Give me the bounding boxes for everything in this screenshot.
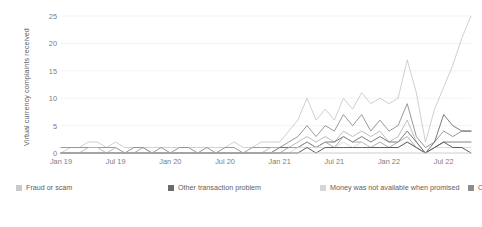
- line-chart-figure: Virtual currency complaints received 051…: [0, 0, 482, 227]
- legend-item-label: Fraud or scam: [26, 184, 72, 191]
- legend-item-label: Money was not available when promised: [330, 184, 459, 191]
- y-tick-label: 25: [49, 12, 57, 21]
- x-tick-label: Jan 20: [159, 157, 181, 166]
- legend-swatch-icon: [16, 185, 22, 191]
- legend-swatch-icon: [468, 185, 474, 191]
- x-tick-label: Jul 22: [434, 157, 454, 166]
- legend-swatch-icon: [168, 185, 174, 191]
- series-line: [61, 120, 471, 153]
- x-tick-label: Jan 22: [378, 157, 400, 166]
- y-tick-label: 10: [49, 94, 57, 103]
- series-line: [61, 16, 471, 153]
- x-tick-label: Jan 21: [269, 157, 291, 166]
- x-tick-label: Jul 21: [324, 157, 344, 166]
- y-tick-label: 20: [49, 39, 57, 48]
- chart-legend: Fraud or scamOther transaction problemMo…: [16, 181, 468, 194]
- x-tick-label: Jul 19: [106, 157, 126, 166]
- x-tick-label: Jan 19: [50, 157, 72, 166]
- legend-item-label: Other transaction problem: [178, 184, 261, 191]
- y-axis-tick-labels: 0510152025: [40, 16, 57, 153]
- x-tick-label: Jul 20: [215, 157, 235, 166]
- legend-item[interactable]: Fraud or scam: [16, 181, 168, 194]
- y-axis-title: Virtual currency complaints received: [22, 12, 34, 162]
- gridlines: [61, 16, 471, 153]
- chart-svg: [61, 16, 471, 153]
- y-tick-label: 15: [49, 66, 57, 75]
- legend-item[interactable]: Other transaction problem: [168, 181, 320, 194]
- legend-swatch-icon: [320, 185, 326, 191]
- series-line: [61, 104, 471, 153]
- legend-item[interactable]: Money was not available when promised: [320, 181, 468, 194]
- x-axis-tick-labels: Jan 19Jul 19Jan 20Jul 20Jan 21Jul 21Jan …: [61, 157, 471, 169]
- series-lines: [61, 16, 471, 153]
- legend-item-label: Other service problem: [478, 184, 482, 191]
- plot-area: [61, 16, 471, 153]
- y-tick-label: 5: [53, 121, 57, 130]
- legend-item[interactable]: Other service problem: [468, 181, 482, 194]
